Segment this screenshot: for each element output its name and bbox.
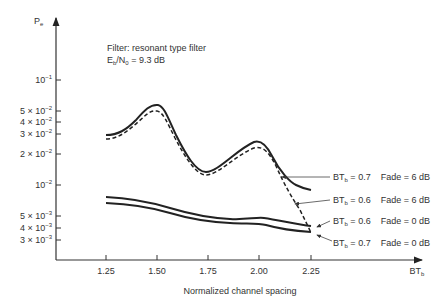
ebn0-annotation: Eb/N0 = 9.3 dB	[107, 55, 165, 66]
legend: BTb = 0.7Fade = 6 dB BTb = 0.6Fade = 6 d…	[333, 172, 430, 249]
svg-text:1.50: 1.50	[148, 266, 166, 276]
x-tick-labels: 1.25 1.50 1.75 2.00 2.25	[97, 266, 320, 276]
svg-text:4 × 10−3: 4 × 10−3	[20, 222, 53, 233]
svg-text:3 × 10−3: 3 × 10−3	[20, 234, 53, 245]
chart: Pe 10−1 5 × 10−2 4 × 10−2 3 × 10−2 2 × 1…	[0, 0, 446, 303]
x-ticks	[106, 255, 311, 260]
x-axis-end-label: BTb	[410, 266, 426, 277]
svg-text:5 × 10−3: 5 × 10−3	[20, 210, 53, 221]
filter-annotation: Filter: resonant type filter	[107, 43, 206, 53]
x-axis-label: Normalized channel spacing	[183, 286, 296, 296]
svg-text:5 × 10−2: 5 × 10−2	[20, 105, 53, 116]
svg-text:1.25: 1.25	[97, 266, 115, 276]
y-tick-labels: 10−1 5 × 10−2 4 × 10−2 3 × 10−2 2 × 10−2…	[20, 74, 53, 245]
svg-text:1.75: 1.75	[199, 266, 217, 276]
y-axis-label: Pe	[34, 16, 44, 27]
svg-text:2.00: 2.00	[250, 266, 268, 276]
svg-text:2.25: 2.25	[302, 266, 320, 276]
svg-text:10−2: 10−2	[35, 179, 53, 190]
svg-text:2 × 10−2: 2 × 10−2	[20, 148, 53, 159]
y-ticks	[56, 80, 61, 240]
svg-text:3 × 10−2: 3 × 10−2	[20, 128, 53, 139]
legend-label-bt06-fade6: BTb = 0.6Fade = 6 dB	[333, 195, 430, 206]
legend-label-bt07-fade0: BTb = 0.7Fade = 0 dB	[333, 238, 430, 249]
svg-text:4 × 10−2: 4 × 10−2	[20, 116, 53, 127]
legend-label-bt07-fade6: BTb = 0.7Fade = 6 dB	[333, 172, 430, 183]
curve-bt07-fade6	[106, 105, 311, 190]
svg-text:10−1: 10−1	[35, 74, 53, 85]
legend-label-bt06-fade0: BTb = 0.6Fade = 0 dB	[333, 216, 430, 227]
